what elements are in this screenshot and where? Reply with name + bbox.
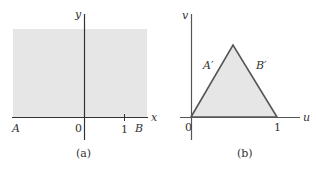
u-axis-label: u xyxy=(303,111,310,124)
panel-b: v u A′ B′ 0 1 (b) xyxy=(180,9,310,160)
caption-a: (a) xyxy=(76,147,91,160)
origin-label: 0 xyxy=(75,122,82,135)
panel-a: y x A 0 1 B (a) xyxy=(11,8,158,160)
x-axis-label: x xyxy=(151,111,158,124)
origin-label: 0 xyxy=(185,121,192,134)
tick-1-label: 1 xyxy=(121,123,128,136)
diagram-canvas: y x A 0 1 B (a) v u A′ B′ 0 1 (b) xyxy=(0,0,316,171)
edge-a-label: A′ xyxy=(202,59,214,72)
point-a-label: A xyxy=(11,122,20,135)
shaded-triangle xyxy=(191,45,277,117)
shaded-half-plane xyxy=(13,29,147,117)
edge-b-label: B′ xyxy=(255,59,267,72)
point-b-label: B xyxy=(134,122,143,135)
caption-b: (b) xyxy=(237,147,253,160)
v-axis-label: v xyxy=(182,9,189,22)
y-axis-label: y xyxy=(74,8,82,21)
tick-1-label: 1 xyxy=(274,121,281,134)
